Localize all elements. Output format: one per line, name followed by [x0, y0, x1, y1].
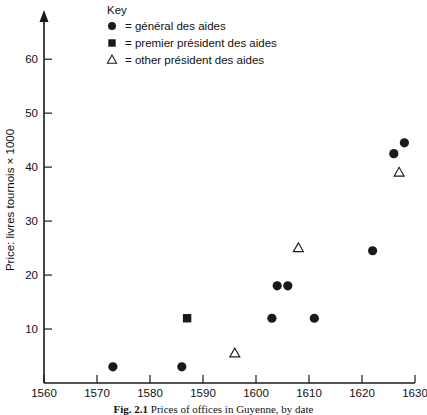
y-tick-label: 50: [25, 107, 38, 119]
figure-number: Fig. 2.1: [114, 403, 149, 415]
x-tick-label: 1620: [349, 387, 375, 399]
y-axis-title: Price: livres tournois × 1000: [4, 129, 16, 271]
chart-legend: Key= général des aides= premier présiden…: [107, 4, 277, 66]
data-point-circle: [310, 314, 319, 323]
y-tick-label: 10: [25, 323, 38, 335]
y-tick-label: 30: [25, 215, 38, 227]
x-tick-label: 1570: [84, 387, 110, 399]
x-tick-label: 1580: [137, 387, 163, 399]
data-point-circle: [368, 246, 377, 255]
legend-marker-square-icon: [108, 39, 115, 46]
data-point-circle: [283, 281, 292, 290]
data-point-triangle: [394, 167, 404, 176]
legend-marker-triangle-icon: [107, 55, 116, 63]
data-point-square: [183, 314, 191, 322]
y-tick-label: 20: [25, 269, 38, 281]
figure-caption: Fig. 2.1 Prices of offices in Guyenne, b…: [0, 403, 427, 415]
x-tick-label: 1630: [402, 387, 427, 399]
figure-caption-text: Prices of offices in Guyenne, by date: [151, 403, 314, 415]
x-tick-label: 1600: [243, 387, 269, 399]
data-point-triangle: [293, 243, 303, 252]
data-point-circle: [267, 314, 276, 323]
legend-entry-label: = other président des aides: [125, 54, 264, 66]
data-point-circle: [400, 138, 409, 147]
data-point-circle: [273, 281, 282, 290]
legend-title: Key: [107, 4, 127, 16]
legend-entry-label: = général des aides: [125, 20, 226, 32]
y-axis-label: Price: livres tournois × 1000: [4, 129, 16, 271]
legend-entry-label: = premier président des aides: [125, 37, 277, 49]
y-axis-arrow-icon: [40, 10, 49, 22]
chart-ticks: 1020304050601560157015801590160016101620…: [25, 53, 427, 399]
data-point-circle: [108, 362, 117, 371]
legend-marker-circle-icon: [108, 22, 116, 30]
chart-data-points: [108, 138, 409, 371]
x-tick-label: 1560: [31, 387, 57, 399]
data-point-triangle: [230, 348, 240, 357]
scatter-chart: 1020304050601560157015801590160016101620…: [0, 0, 427, 415]
chart-canvas: 1020304050601560157015801590160016101620…: [0, 0, 427, 415]
x-tick-label: 1610: [296, 387, 322, 399]
y-tick-label: 40: [25, 161, 38, 173]
y-tick-label: 60: [25, 53, 38, 65]
data-point-circle: [389, 149, 398, 158]
x-tick-label: 1590: [190, 387, 216, 399]
data-point-circle: [177, 362, 186, 371]
